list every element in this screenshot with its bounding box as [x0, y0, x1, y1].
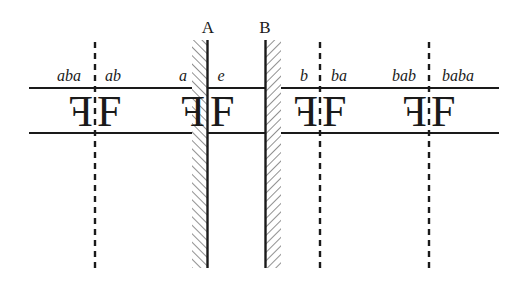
label-ab: ab — [105, 67, 121, 84]
label-b: b — [300, 67, 308, 84]
mirror-b-hatching — [265, 40, 281, 268]
mirror-b-label: B — [259, 18, 270, 37]
glyph-aba-mirrored: F — [69, 87, 93, 136]
mirror-reflection-diagram: A B aba ab a e b ba bab baba F F F F F F… — [0, 0, 525, 284]
label-ba: ba — [331, 67, 347, 84]
label-baba: baba — [442, 67, 474, 84]
label-aba: aba — [57, 67, 81, 84]
glyph-b-mirrored: F — [294, 87, 318, 136]
mirror-a-hatching — [192, 40, 207, 268]
mirror-a-label: A — [202, 18, 215, 37]
mirror-a: A — [192, 18, 215, 268]
glyph-bab-mirrored: F — [403, 87, 427, 136]
glyph-e: F — [210, 87, 234, 136]
label-e: e — [217, 67, 224, 84]
glyph-a-mirrored: F — [181, 87, 205, 136]
label-a: a — [179, 67, 187, 84]
glyph-ba: F — [322, 87, 346, 136]
glyph-ab: F — [97, 87, 121, 136]
dashed-lines — [95, 42, 429, 270]
glyph-baba: F — [431, 87, 455, 136]
label-bab: bab — [392, 67, 416, 84]
f-images: F F F F F F F F — [69, 87, 456, 136]
mirror-b: B — [259, 18, 281, 268]
